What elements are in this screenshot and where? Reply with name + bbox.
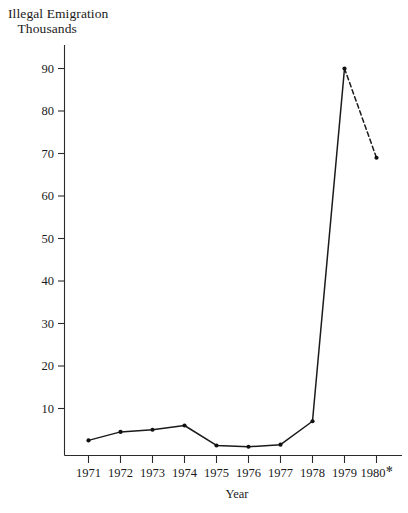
x-tick-marks xyxy=(89,456,377,464)
data-point xyxy=(246,445,250,449)
x-tick-label: 1975 xyxy=(204,466,229,481)
x-tick-label: 1979 xyxy=(332,466,357,481)
x-tick-label: 1972 xyxy=(108,466,133,481)
data-point xyxy=(214,443,218,447)
data-point xyxy=(278,443,282,447)
data-point xyxy=(150,428,154,432)
data-point-markers xyxy=(86,66,378,448)
y-tick-label: 90 xyxy=(20,61,54,76)
data-line-dashed xyxy=(345,69,377,158)
x-tick-label: 1977 xyxy=(268,466,293,481)
y-tick-label: 80 xyxy=(20,104,54,119)
y-tick-label: 40 xyxy=(20,274,54,289)
data-line-solid xyxy=(89,69,345,447)
y-tick-label: 30 xyxy=(20,316,54,331)
x-tick-label: 1974 xyxy=(172,466,197,481)
footnote-marker-icon: ✻ xyxy=(386,465,393,474)
y-tick-label: 10 xyxy=(20,401,54,416)
x-tick-label: 1973 xyxy=(140,466,165,481)
plot-area xyxy=(0,0,408,513)
data-point xyxy=(342,66,346,70)
chart-figure: Illegal Emigration Thousands xyxy=(0,0,408,513)
x-tick-label: 1980✻ xyxy=(361,466,393,481)
y-tick-label: 70 xyxy=(20,146,54,161)
y-tick-marks xyxy=(58,69,65,409)
x-tick-label: 1971 xyxy=(76,466,101,481)
data-point xyxy=(182,423,186,427)
x-tick-label: 1978 xyxy=(300,466,325,481)
data-point xyxy=(86,438,90,442)
x-tick-label: 1976 xyxy=(236,466,261,481)
y-tick-label: 50 xyxy=(20,231,54,246)
data-point xyxy=(118,430,122,434)
data-point xyxy=(374,156,378,160)
y-tick-label: 20 xyxy=(20,359,54,374)
y-tick-label: 60 xyxy=(20,189,54,204)
data-point xyxy=(310,419,314,423)
x-axis-title: Year xyxy=(225,487,248,502)
